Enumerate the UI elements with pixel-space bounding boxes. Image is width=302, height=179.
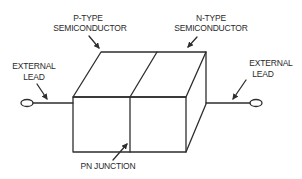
left-lead-arrow xyxy=(37,84,47,99)
left-lead-label-line1: EXTERNAL xyxy=(12,61,56,71)
n-type-label-line2: SEMICONDUCTOR xyxy=(174,23,247,33)
side-face xyxy=(186,52,206,152)
label-p-type: P-TYPE SEMICONDUCTOR xyxy=(53,13,126,48)
left-lead-terminal xyxy=(21,100,33,107)
right-external-lead xyxy=(206,100,262,107)
n-type-label-line1: N-TYPE xyxy=(196,13,227,23)
right-lead-arrow xyxy=(233,80,246,99)
right-lead-terminal xyxy=(250,100,262,107)
left-external-lead xyxy=(21,100,73,107)
p-type-label-line1: P-TYPE xyxy=(73,13,103,23)
label-left-lead: EXTERNAL LEAD xyxy=(12,61,56,99)
right-lead-label-line1: EXTERNAL xyxy=(249,58,293,68)
semiconductor-block xyxy=(73,52,206,152)
right-lead-label-line2: LEAD xyxy=(252,69,273,79)
top-face xyxy=(73,52,206,97)
p-type-arrow xyxy=(89,36,99,48)
n-type-arrow xyxy=(188,37,197,47)
label-right-lead: EXTERNAL LEAD xyxy=(233,58,293,99)
junction-divider-top xyxy=(130,52,157,97)
pn-junction-diagram: P-TYPE SEMICONDUCTOR N-TYPE SEMICONDUCTO… xyxy=(0,0,302,179)
label-n-type: N-TYPE SEMICONDUCTOR xyxy=(174,13,247,47)
pn-junction-label: PN JUNCTION xyxy=(81,161,136,171)
label-pn-junction: PN JUNCTION xyxy=(81,144,136,171)
p-type-label-line2: SEMICONDUCTOR xyxy=(53,23,126,33)
left-lead-label-line2: LEAD xyxy=(23,72,44,82)
